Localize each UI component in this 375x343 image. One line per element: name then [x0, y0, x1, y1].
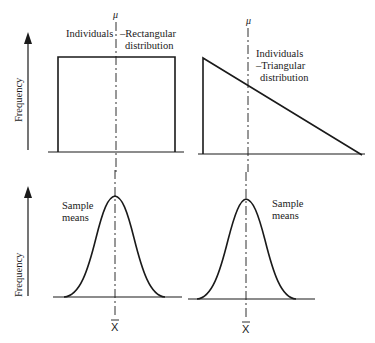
- arrow-up-icon: [24, 32, 32, 44]
- y-axis-bottom: [24, 186, 32, 296]
- label-triangular: –Triangular: [255, 60, 306, 71]
- label-distribution: distribution: [125, 40, 174, 51]
- label-individuals: Individuals: [66, 28, 113, 39]
- panel-sample-means-left: [53, 170, 182, 315]
- y-axis-label-bottom: Frequency: [13, 252, 24, 297]
- y-axis-top: [24, 32, 32, 150]
- label-sample: Sample: [272, 198, 304, 209]
- arrow-up-icon: [24, 186, 32, 198]
- y-axis-label-top: Frequency: [13, 77, 24, 122]
- label-means: means: [272, 210, 299, 221]
- mu-label-left: μ: [112, 9, 118, 20]
- label-means: means: [62, 212, 89, 223]
- label-distribution: distribution: [260, 72, 309, 83]
- label-individuals: Individuals: [256, 48, 303, 59]
- xbar-label-left: X: [111, 321, 119, 333]
- label-sample: Sample: [62, 200, 94, 211]
- panel-sample-means-right: [188, 172, 315, 317]
- label-rectangular: –Rectangular: [119, 28, 176, 39]
- rectangle-shape: [58, 57, 175, 152]
- mu-label-right: μ: [245, 15, 251, 26]
- sampling-distribution-diagram: Frequency Frequency μ Individuals –Recta…: [0, 0, 375, 343]
- xbar-label-right: X: [242, 323, 250, 335]
